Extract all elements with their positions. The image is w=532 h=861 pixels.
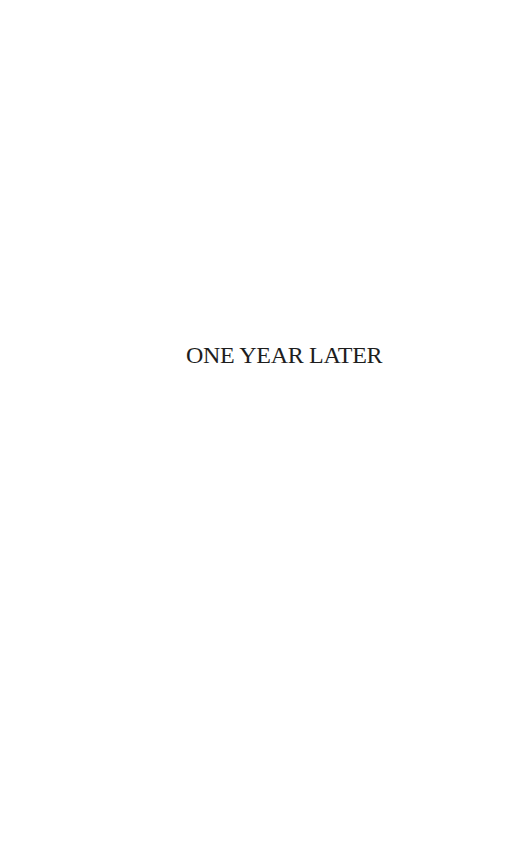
book-page: ONE YEAR LATER <box>0 0 532 861</box>
section-heading: ONE YEAR LATER <box>186 340 378 370</box>
